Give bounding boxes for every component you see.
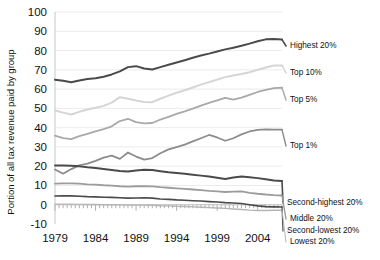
y-axis-title: Portion of all tax revenue paid by group [5, 49, 16, 214]
y-tick-label: 60 [34, 83, 47, 95]
x-tick-label: 1979 [42, 232, 68, 244]
y-tick-label: 80 [34, 45, 47, 57]
series-label-second-lowest-20: Second-lowest 20% [287, 226, 359, 235]
y-tick-label: 50 [34, 102, 47, 114]
y-tick-label: 70 [34, 64, 47, 76]
y-tick-label: 100 [28, 6, 47, 18]
y-tick-label: 10 [34, 179, 47, 191]
x-tick-label: 1999 [204, 232, 230, 244]
y-tick-label: 30 [34, 141, 47, 153]
series-label-top-10: Top 10% [290, 68, 322, 77]
chart-container: 1009080706050403020100-10 19791984198919… [0, 0, 380, 260]
series-label-middle-20: Middle 20% [290, 214, 333, 223]
y-tick-label: 90 [34, 25, 47, 37]
x-tick-label: 1994 [164, 232, 190, 244]
series-label-top-5: Top 5% [290, 95, 317, 104]
y-tick-label: 40 [34, 122, 47, 134]
y-tick-label: -10 [30, 218, 47, 230]
y-tick-label: 20 [34, 160, 47, 172]
x-tick-label: 1984 [83, 232, 109, 244]
series-label-highest-20: Highest 20% [290, 41, 336, 50]
y-tick-label: 0 [41, 199, 47, 211]
series-label-top-1: Top 1% [290, 141, 317, 150]
series-label-lowest-20: Lowest 20% [290, 237, 335, 246]
series-label-second-highest-20: Second-highest 20% [287, 198, 363, 207]
tax-revenue-share-line-chart: 1009080706050403020100-10 19791984198919… [0, 0, 380, 260]
x-tick-label: 1989 [123, 232, 149, 244]
x-tick-label: 2004 [245, 232, 271, 244]
